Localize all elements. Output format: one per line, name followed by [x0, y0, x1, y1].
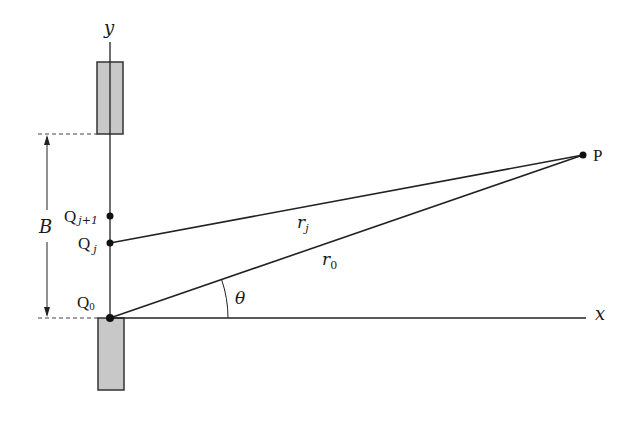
- angle-arc: [222, 280, 228, 318]
- slit-width-label: B: [38, 216, 52, 237]
- point-qj: [107, 240, 114, 247]
- segment-label-r0: r0: [322, 249, 337, 272]
- label-qj1: Qj+1: [64, 207, 98, 227]
- label-p: P: [593, 146, 602, 165]
- arrowhead-down-icon: [44, 307, 50, 317]
- y-axis-label: y: [103, 17, 115, 38]
- ray-rj: [110, 155, 583, 243]
- angle-label: θ: [235, 288, 245, 308]
- ray-r0: [110, 155, 583, 318]
- point-qj1: [107, 213, 114, 220]
- lower-slit-edge: [98, 318, 124, 390]
- label-q0: Q0: [77, 293, 95, 312]
- slit-diagram: y x B θ rj r0 Qj+1 Qj Q0 P: [0, 0, 642, 424]
- point-q0: [106, 314, 114, 322]
- segment-label-rj: rj: [297, 212, 309, 235]
- label-qj: Qj: [78, 234, 97, 256]
- arrowhead-up-icon: [44, 135, 50, 145]
- point-p: [580, 152, 587, 159]
- x-axis-label: x: [595, 303, 605, 324]
